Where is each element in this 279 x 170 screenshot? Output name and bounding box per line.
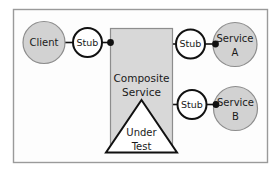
stub-b-label: Stub	[181, 99, 203, 110]
service-b-label-line2: B	[232, 111, 239, 122]
service-architecture-diagram: Client Stub Stub Stub Service A Service …	[0, 0, 279, 170]
stub-client-label: Stub	[77, 37, 99, 48]
composite-service-label-line1: Composite	[113, 72, 169, 84]
diagram-canvas: Client Stub Stub Stub Service A Service …	[0, 0, 279, 170]
under-test-label-line2: Test	[131, 141, 152, 152]
under-test-label-line1: Under	[126, 127, 157, 138]
composite-service-label-line2: Service	[122, 86, 161, 98]
service-a-label-line2: A	[232, 47, 239, 58]
service-b-label-line1: Service	[217, 97, 254, 108]
stub-a-label: Stub	[180, 38, 202, 49]
service-a-label-line1: Service	[217, 33, 254, 44]
dot-composite-left	[107, 39, 114, 46]
client-label: Client	[30, 37, 59, 48]
service-a-node	[213, 23, 257, 67]
service-b-node	[214, 87, 258, 131]
